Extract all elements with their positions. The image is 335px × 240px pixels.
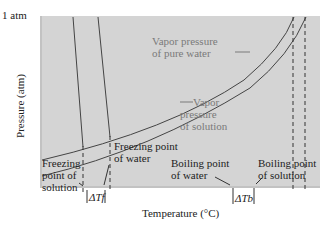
vp-pure-label-2: of pure water <box>152 48 211 59</box>
boiling-water-label-2: of water <box>171 170 207 181</box>
boiling-solution-label-2: of solution <box>258 170 305 181</box>
vp-solution-label-1: Vapor <box>193 97 219 108</box>
delta-tf-label: ΔTf <box>89 192 105 203</box>
freezing-solution-label-1: Freezing <box>42 158 80 169</box>
freezing-solution-label-2: point of <box>42 170 77 181</box>
x-axis-label: Temperature (°C) <box>142 207 219 219</box>
vp-solution-label-3: of solution <box>180 121 227 132</box>
boiling-solution-label-1: Boiling point <box>258 158 316 169</box>
freezing-water-label-2: of water <box>114 153 150 164</box>
vp-solution-label-2: pressure <box>180 109 217 120</box>
freezing-solution-label-3: solution <box>42 182 77 193</box>
freezing-water-label-1: Freezing point <box>114 141 178 152</box>
vp-pure-label-1: Vapor pressure <box>152 36 218 47</box>
delta-tb-label: ΔTb <box>235 193 253 204</box>
boiling-water-label-1: Boiling point <box>171 158 229 169</box>
